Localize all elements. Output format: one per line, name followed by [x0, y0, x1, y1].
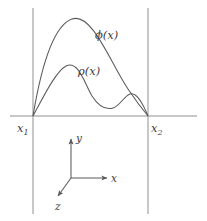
diagram-canvas: ϕ(x) ρ(x) x1 x2 y x z [0, 0, 207, 221]
axis-arrow-z [58, 178, 71, 196]
label-phi: ϕ(x) [95, 28, 118, 42]
label-axis-x: x [111, 172, 117, 184]
label-x1-subscript: 1 [24, 128, 29, 137]
label-rho: ρ(x) [77, 64, 100, 78]
label-axis-z: z [54, 200, 61, 212]
label-axis-y: y [75, 132, 83, 144]
label-x2: x2 [151, 121, 163, 137]
label-x1: x1 [17, 121, 29, 137]
figure-container: ϕ(x) ρ(x) x1 x2 y x z [0, 0, 207, 221]
label-x2-subscript: 2 [157, 128, 163, 137]
